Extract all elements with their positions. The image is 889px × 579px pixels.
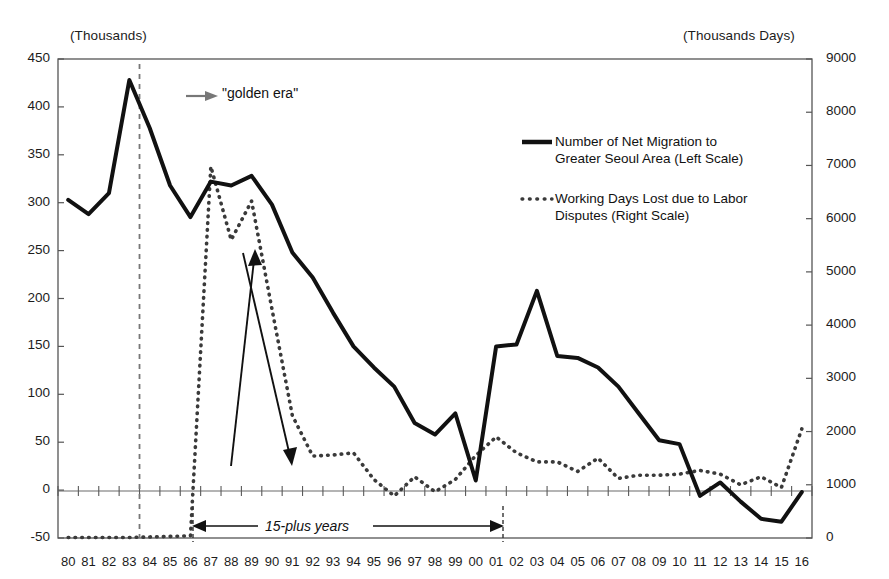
annotation-up-arrow-head bbox=[248, 249, 262, 266]
plot-canvas bbox=[0, 0, 889, 579]
series-working-days-lost-dotted-line bbox=[68, 167, 802, 538]
annotation-up-arrow-shaft bbox=[231, 260, 254, 466]
annotation-down-arrow-head bbox=[283, 447, 297, 466]
span-arrow-left-head bbox=[192, 520, 206, 532]
chart-figure: (Thousands) (Thousands Days) 45040035030… bbox=[0, 0, 889, 579]
plot-frame bbox=[58, 59, 812, 538]
series-net-migration-solid-line bbox=[68, 80, 802, 522]
span-arrow-right-head bbox=[490, 520, 504, 532]
golden-era-arrow-head bbox=[205, 91, 218, 101]
